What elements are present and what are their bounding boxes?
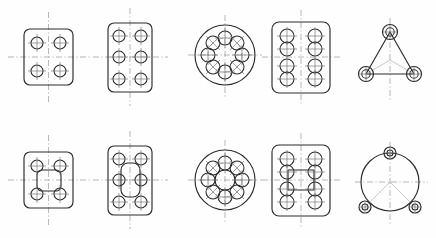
lug [409,201,421,213]
hole [383,25,398,40]
hole [359,67,374,82]
drawing-sheet [0,0,436,238]
lug [359,201,371,213]
hole [407,67,422,82]
drawing-canvas [0,0,436,238]
lug [384,147,396,159]
